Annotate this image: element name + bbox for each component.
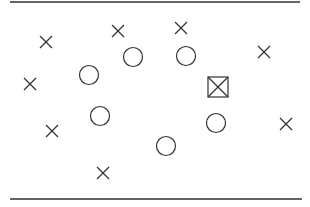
circle-marker — [207, 114, 226, 133]
cross-marker — [24, 78, 36, 90]
cross-marker — [112, 25, 124, 37]
marker-diagram — [0, 0, 310, 207]
cross-marker — [258, 46, 270, 58]
cross-marker — [175, 22, 187, 34]
cross-marker — [97, 167, 109, 179]
circle-marker — [157, 137, 176, 156]
circle-marker — [124, 48, 143, 67]
circle-marker — [177, 47, 196, 66]
cross-marker — [280, 118, 292, 130]
cross-marker — [40, 36, 52, 48]
circle-marker — [91, 107, 110, 126]
boxed-cross-marker — [208, 77, 228, 97]
cross-markers — [24, 22, 292, 179]
circle-markers — [80, 47, 226, 156]
diagram-canvas — [0, 0, 310, 207]
cross-marker — [46, 125, 58, 137]
circle-marker — [80, 66, 99, 85]
